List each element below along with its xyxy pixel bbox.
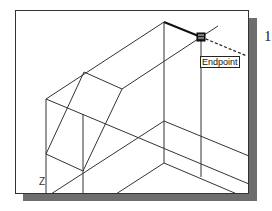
cad-drawing-viewport[interactable]	[15, 10, 249, 194]
endpoint-snap-marker-icon	[197, 33, 205, 41]
step-number-label: 1	[264, 28, 272, 45]
wireframe-model	[15, 10, 249, 194]
ucs-z-axis-icon: Z	[39, 176, 45, 187]
osnap-endpoint-tooltip: Endpoint	[200, 56, 240, 68]
